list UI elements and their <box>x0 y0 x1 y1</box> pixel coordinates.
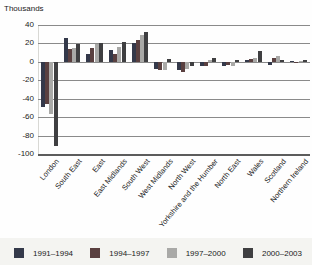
x-axis-labels: LondonSouth EastEastEast MidlandsSouth W… <box>38 157 310 237</box>
plot-area <box>38 25 310 154</box>
bar <box>258 51 262 62</box>
legend-label: 2000–2003 <box>262 249 302 258</box>
bar <box>190 62 194 66</box>
x-tick-label: Wales <box>245 157 265 179</box>
bar <box>122 42 126 62</box>
legend-swatch <box>90 248 100 258</box>
bar <box>144 32 148 61</box>
y-tick-label: -20 <box>0 76 34 84</box>
bar <box>212 58 216 62</box>
gridline <box>38 80 310 81</box>
bar <box>204 62 208 67</box>
y-tick-label: -80 <box>0 132 34 140</box>
y-tick-label: -40 <box>0 95 34 103</box>
x-tick-label: East <box>90 157 107 174</box>
bar <box>231 62 235 66</box>
y-tick-label: 40 <box>0 21 34 29</box>
bar <box>163 62 167 70</box>
gridline <box>38 99 310 100</box>
y-tick-label: 20 <box>0 39 34 47</box>
legend-label: 1994–1997 <box>109 249 149 258</box>
legend-item: 1991–1994 <box>14 248 73 258</box>
bar <box>76 44 80 62</box>
y-tick-label: 0 <box>0 58 34 66</box>
gridline <box>38 117 310 118</box>
legend-swatch <box>243 248 253 258</box>
bar <box>294 62 298 63</box>
bar <box>235 60 239 62</box>
legend-item: 2000–2003 <box>243 248 302 258</box>
bar <box>54 62 58 146</box>
y-tick-label: -100 <box>0 150 34 158</box>
legend-item: 1994–1997 <box>90 248 149 258</box>
legend-swatch <box>14 248 24 258</box>
y-axis-unit-label: Thousands <box>4 4 44 13</box>
legend-label: 1997–2000 <box>186 249 226 258</box>
legend-swatch <box>167 248 177 258</box>
legend-item: 1997–2000 <box>167 248 226 258</box>
bar <box>280 60 284 62</box>
bar <box>99 43 103 62</box>
bar <box>167 59 171 62</box>
bar <box>303 60 307 62</box>
gridline <box>38 25 310 26</box>
gridline <box>38 136 310 137</box>
bar <box>268 62 272 65</box>
legend: 1991–19941994–19971997–20002000–2003 <box>0 244 312 262</box>
x-axis-baseline <box>38 154 310 156</box>
bar-chart: Thousands 40200-20-40-60-80-100 LondonSo… <box>0 0 312 265</box>
y-tick-label: -60 <box>0 113 34 121</box>
legend-label: 1991–1994 <box>33 249 73 258</box>
